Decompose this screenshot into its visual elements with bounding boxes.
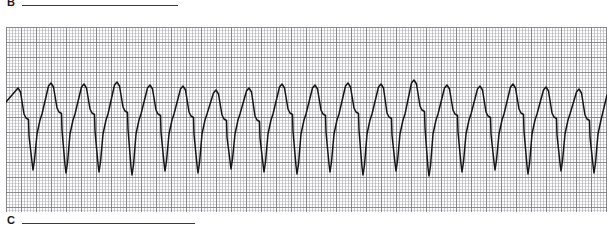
panel-c-rule xyxy=(22,223,195,224)
ecg-waveform-trace xyxy=(6,27,607,212)
panel-c-caption: C xyxy=(0,212,612,228)
panel-b-rule xyxy=(22,5,178,6)
ecg-strip xyxy=(6,27,607,212)
panel-b-letter: B xyxy=(0,0,21,10)
panel-c-letter: C xyxy=(0,212,21,228)
panel-b-caption: B xyxy=(0,0,612,10)
figure-panel: B C xyxy=(0,0,612,230)
